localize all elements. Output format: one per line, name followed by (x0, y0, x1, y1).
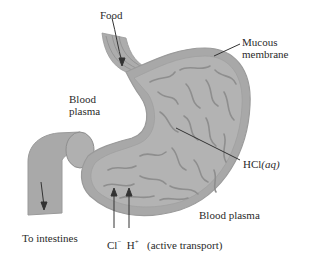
label-hcl-state: (aq) (261, 158, 279, 170)
label-mucous-membrane: Mucous membrane (242, 36, 288, 60)
label-active-transport: (active transport) (147, 239, 222, 251)
label-blood-plasma-left: Blood plasma (69, 93, 100, 117)
label-cl-charge: − (117, 238, 121, 246)
label-ions: Cl− H+ (active transport) (107, 236, 222, 251)
label-mucous-line1: Mucous (242, 36, 288, 48)
label-blood-line2: plasma (69, 105, 100, 117)
label-mucous-line2: membrane (242, 48, 288, 60)
label-to-intestines: To intestines (22, 232, 78, 244)
label-h-ion: H (127, 239, 135, 251)
label-food: Food (100, 9, 123, 21)
label-hcl: HCl(aq) (243, 158, 280, 170)
label-h-charge: + (135, 238, 139, 246)
label-hcl-formula: HCl (243, 158, 261, 170)
label-blood-line1: Blood (69, 93, 100, 105)
label-blood-plasma-right: Blood plasma (199, 209, 260, 221)
label-cl-ion: Cl (107, 239, 117, 251)
